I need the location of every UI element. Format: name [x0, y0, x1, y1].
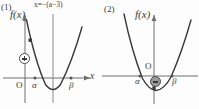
panel-2-function-label: f(x) [135, 9, 150, 20]
panel-1-origin-label: O [16, 81, 23, 90]
y-intercept-marker-1 [29, 39, 32, 42]
y-intercept-marker-2 [152, 87, 155, 90]
graph-panel-2: (2) f(x) O α β [99, 0, 199, 109]
minus-sign-badge-icon [150, 76, 161, 87]
figure-root: (1) f(x) x=−(a−3) O α β x [0, 0, 199, 109]
panel-2-origin-label: O [145, 62, 152, 71]
panel-2-root-beta-label: β [172, 77, 176, 86]
panel-2-number: (2) [104, 5, 115, 14]
panel-2-root-alpha-label: α [135, 77, 140, 86]
panel-1-x-axis-label: x [90, 72, 94, 82]
panel-1-root-beta-label: β [69, 81, 73, 90]
graph-panel-1: (1) f(x) x=−(a−3) O α β x [0, 0, 99, 109]
panel-1-root-alpha-label: α [32, 81, 37, 90]
plus-sign-badge-icon [19, 53, 30, 64]
panel-1-axis-of-symmetry-label: x=−(a−3) [34, 1, 63, 9]
panel-1-function-label: f(x) [10, 9, 25, 20]
